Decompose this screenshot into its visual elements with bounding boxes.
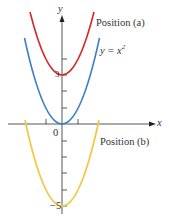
- equation-base: y = x: [100, 45, 122, 56]
- annotation-position-b: Position (b): [100, 137, 149, 148]
- y-axis-label: y: [58, 4, 63, 15]
- annotation-equation: y = x2: [100, 44, 125, 56]
- y-ticks: [62, 59, 67, 206]
- chart-plot: [0, 0, 169, 219]
- y-tick-label-3: 3: [55, 70, 60, 79]
- annotation-position-a: Position (a): [96, 18, 145, 29]
- equation-exponent: 2: [122, 43, 126, 51]
- x-axis-arrow-icon: [149, 122, 156, 127]
- y-tick-label-minus-5: −5: [50, 201, 61, 212]
- origin-label: 0: [53, 128, 58, 139]
- y-axis-arrow-icon: [60, 15, 65, 22]
- x-axis-label: x: [157, 118, 162, 129]
